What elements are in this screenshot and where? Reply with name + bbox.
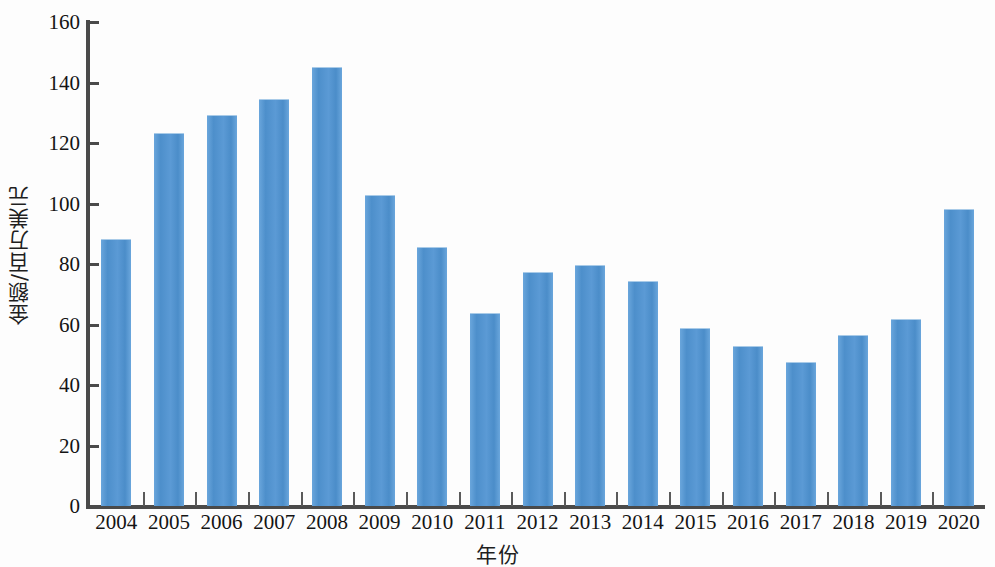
- y-axis-tick-mark: [90, 384, 99, 387]
- x-axis-tick-mark: [459, 492, 461, 506]
- bar: [838, 335, 868, 506]
- y-axis-tick-mark: [90, 21, 99, 24]
- x-axis-tick-mark: [774, 492, 776, 506]
- y-axis-tick-mark: [90, 324, 99, 327]
- bar: [944, 209, 974, 506]
- bar: [628, 281, 658, 506]
- x-axis-tick-mark: [722, 492, 724, 506]
- x-axis-tick-mark: [195, 492, 197, 506]
- x-axis-tick-label: 2020: [929, 512, 989, 533]
- x-axis-tick-label: 2007: [244, 512, 304, 533]
- x-axis-tick-label: 2006: [192, 512, 252, 533]
- bar: [470, 313, 500, 506]
- bar: [101, 239, 131, 506]
- x-axis-tick-label: 2010: [402, 512, 462, 533]
- x-axis-tick-mark: [248, 492, 250, 506]
- x-axis-tick-mark: [511, 492, 513, 506]
- x-axis-tick-label: 2017: [771, 512, 831, 533]
- bar: [523, 272, 553, 506]
- plot-area: [0, 0, 995, 567]
- y-axis-tick-mark: [90, 203, 99, 206]
- x-axis-tick-label: 2019: [876, 512, 936, 533]
- y-axis-tick-mark: [90, 263, 99, 266]
- x-axis-tick-mark: [827, 492, 829, 506]
- bar: [365, 195, 395, 506]
- x-axis-tick-mark: [669, 492, 671, 506]
- x-axis-tick-mark: [353, 492, 355, 506]
- x-axis-tick-mark: [406, 492, 408, 506]
- bar: [154, 133, 184, 506]
- x-axis-tick-label: 2012: [508, 512, 568, 533]
- bar: [207, 115, 237, 506]
- x-axis-tick-label: 2013: [560, 512, 620, 533]
- x-axis-tick-mark: [564, 492, 566, 506]
- x-axis-title: 年份: [0, 538, 995, 567]
- x-axis-tick-label: 2015: [665, 512, 725, 533]
- bar: [786, 362, 816, 506]
- x-axis-tick-label: 2011: [455, 512, 515, 533]
- y-axis-tick-mark: [90, 142, 99, 145]
- x-axis-tick-mark: [932, 492, 934, 506]
- x-axis-tick-label: 2016: [718, 512, 778, 533]
- x-axis-tick-label: 2005: [139, 512, 199, 533]
- bar: [733, 346, 763, 506]
- bar: [312, 67, 342, 506]
- bar: [680, 328, 710, 506]
- x-axis-tick-label: 2004: [86, 512, 146, 533]
- bar-chart: 金额/百万美元 160140120100806040200 年份 2004200…: [0, 0, 995, 567]
- x-axis-tick-label: 2009: [350, 512, 410, 533]
- x-axis-tick-mark: [301, 492, 303, 506]
- x-axis-tick-label: 2018: [823, 512, 883, 533]
- bar: [417, 247, 447, 506]
- bar: [891, 319, 921, 506]
- y-axis-tick-mark: [90, 445, 99, 448]
- x-axis-tick-label: 2008: [297, 512, 357, 533]
- bar: [259, 99, 289, 506]
- bar: [575, 265, 605, 506]
- y-axis-tick-mark: [90, 82, 99, 85]
- x-axis-tick-mark: [880, 492, 882, 506]
- x-axis-tick-mark: [143, 492, 145, 506]
- x-axis-tick-label: 2014: [613, 512, 673, 533]
- x-axis-tick-mark: [616, 492, 618, 506]
